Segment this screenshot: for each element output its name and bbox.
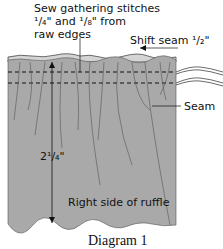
thread-tail-2	[176, 78, 223, 83]
shift-seam-label: Shift seam ¹/₂"	[130, 34, 210, 47]
height-label: 2¹/₄"	[40, 150, 65, 163]
gathering-label-line3: raw edges	[34, 28, 91, 41]
right-side-label: Right side of ruffle	[68, 196, 170, 209]
thread-tail-1b	[176, 70, 223, 75]
diagram-caption: Diagram 1	[88, 233, 147, 249]
seam-label: Seam	[184, 100, 215, 113]
thread-tail-2b	[176, 81, 223, 86]
thread-tail-1	[176, 67, 223, 72]
gathering-label-line2: ¹/₄" and ¹/₈" from	[34, 15, 126, 28]
gathering-label-line1: Sew gathering stitches	[34, 2, 160, 15]
